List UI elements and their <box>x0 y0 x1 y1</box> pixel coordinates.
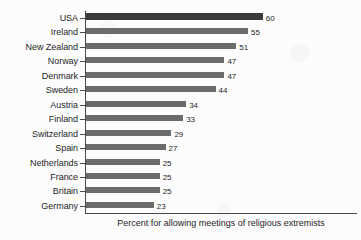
bar-row: Germany23 <box>0 199 361 214</box>
axis-tick <box>80 47 85 48</box>
bar-value-label: 25 <box>163 170 172 185</box>
bar-value-label: 60 <box>266 11 275 26</box>
bar-value-label: 47 <box>227 69 236 84</box>
bar-value-label: 29 <box>174 127 183 142</box>
bar-value-label: 51 <box>239 40 248 55</box>
bar <box>86 43 236 49</box>
category-label: Ireland <box>0 25 78 40</box>
axis-tick <box>80 206 85 207</box>
x-axis-caption: Percent for allowing meetings of religio… <box>85 216 357 230</box>
bar <box>86 202 154 208</box>
category-label: Norway <box>0 54 78 69</box>
bar <box>86 115 183 121</box>
bar-value-label: 27 <box>169 141 178 156</box>
axis-tick <box>80 119 85 120</box>
axis-tick <box>80 163 85 164</box>
axis-tick <box>80 177 85 178</box>
category-label: Austria <box>0 98 78 113</box>
category-label: Spain <box>0 141 78 156</box>
bar <box>86 86 216 92</box>
bar <box>86 130 171 136</box>
bar <box>86 28 248 34</box>
bar <box>86 187 160 193</box>
bar-row: France25 <box>0 170 361 185</box>
bar-value-label: 44 <box>219 83 228 98</box>
category-label: USA <box>0 11 78 26</box>
bar-row: Finland33 <box>0 112 361 127</box>
category-label: Switzerland <box>0 127 78 142</box>
bar-row: Austria34 <box>0 98 361 113</box>
bar <box>86 101 186 107</box>
category-label: Sweden <box>0 83 78 98</box>
category-label: Germany <box>0 199 78 214</box>
axis-tick <box>80 105 85 106</box>
bar-value-label: 33 <box>186 112 195 127</box>
bar <box>86 173 160 179</box>
bar-row: Sweden44 <box>0 83 361 98</box>
bar <box>86 57 224 63</box>
bar-row: Denmark47 <box>0 69 361 84</box>
bar-row: Spain27 <box>0 141 361 156</box>
axis-tick <box>80 134 85 135</box>
axis-tick <box>80 191 85 192</box>
bar-value-label: 23 <box>157 199 166 214</box>
axis-tick <box>80 18 85 19</box>
category-label: Finland <box>0 112 78 127</box>
category-label: Netherlands <box>0 156 78 171</box>
bar <box>86 72 224 78</box>
category-label: France <box>0 170 78 185</box>
bar-row: Ireland55 <box>0 25 361 40</box>
bar-row: USA60 <box>0 11 361 26</box>
axis-tick <box>80 76 85 77</box>
bar-row: New Zealand51 <box>0 40 361 55</box>
axis-tick <box>80 90 85 91</box>
category-label: Denmark <box>0 69 78 84</box>
bar-row: Netherlands25 <box>0 156 361 171</box>
bar <box>86 144 166 150</box>
bar-row: Switzerland29 <box>0 127 361 142</box>
category-label: Britain <box>0 184 78 199</box>
axis-tick <box>80 32 85 33</box>
bar-value-label: 25 <box>163 184 172 199</box>
bar <box>86 13 263 20</box>
bar-row: Britain25 <box>0 184 361 199</box>
category-label: New Zealand <box>0 40 78 55</box>
bar-row: Norway47 <box>0 54 361 69</box>
axis-tick <box>80 148 85 149</box>
bar-chart: USA60Ireland55New Zealand51Norway47Denma… <box>0 0 361 240</box>
bar <box>86 159 160 165</box>
bar-value-label: 34 <box>189 98 198 113</box>
axis-tick <box>80 61 85 62</box>
bar-value-label: 55 <box>251 25 260 40</box>
bar-value-label: 25 <box>163 156 172 171</box>
bar-value-label: 47 <box>227 54 236 69</box>
